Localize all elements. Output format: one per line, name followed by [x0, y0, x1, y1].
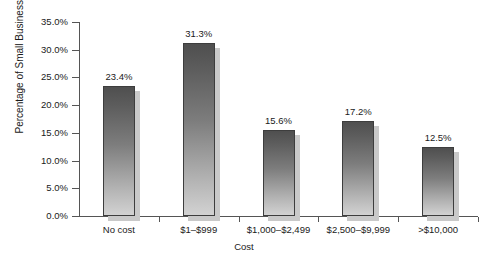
bar-value-label: 31.3% — [164, 28, 234, 39]
y-axis-tick-mark — [72, 188, 79, 189]
bar-chart: Percentage of Small Businesses 0.0%5.0%1… — [0, 0, 488, 266]
x-axis-tick-mark — [478, 217, 479, 222]
bar[interactable] — [103, 86, 135, 216]
y-axis-tick-mark — [72, 133, 79, 134]
y-axis-tick-label: 15.0% — [0, 128, 68, 138]
x-axis-tick-mark — [239, 217, 240, 222]
bar-group: 23.4% — [103, 22, 135, 216]
bar[interactable] — [422, 147, 454, 216]
bar-group: 12.5% — [422, 22, 454, 216]
plot-area: 23.4%31.3%15.6%17.2%12.5% — [79, 22, 478, 216]
x-axis-tick-mark — [318, 217, 319, 222]
y-axis-tick-label: 0.0% — [0, 211, 68, 221]
bar-value-label: 23.4% — [84, 71, 154, 82]
bar-group: 31.3% — [183, 22, 215, 216]
x-axis-tick-mark — [159, 217, 160, 222]
x-axis-tick-mark — [398, 217, 399, 222]
y-axis-tick-mark — [72, 216, 79, 217]
y-axis-tick-mark — [72, 22, 79, 23]
bar-group: 15.6% — [263, 22, 295, 216]
y-axis-tick-mark — [72, 161, 79, 162]
y-axis-tick-mark — [72, 77, 79, 78]
y-axis-tick-label: 35.0% — [0, 17, 68, 27]
y-axis-tick-label: 5.0% — [0, 183, 68, 193]
bar-group: 17.2% — [342, 22, 374, 216]
y-axis-tick-label: 10.0% — [0, 156, 68, 166]
y-axis-tick-mark — [72, 50, 79, 51]
y-axis-tick-label: 25.0% — [0, 72, 68, 82]
bar-value-label: 15.6% — [244, 115, 314, 126]
bar-value-label: 17.2% — [323, 106, 393, 117]
bar[interactable] — [183, 43, 215, 216]
bar[interactable] — [342, 121, 374, 216]
y-axis-tick-label: 20.0% — [0, 100, 68, 110]
y-axis-tick-mark — [72, 105, 79, 106]
x-axis-tick-label: >$10,000 — [388, 224, 488, 235]
bar-value-label: 12.5% — [403, 132, 473, 143]
y-axis-tick-label: 30.0% — [0, 45, 68, 55]
bar[interactable] — [263, 130, 295, 216]
x-axis-title: Cost — [0, 241, 488, 252]
